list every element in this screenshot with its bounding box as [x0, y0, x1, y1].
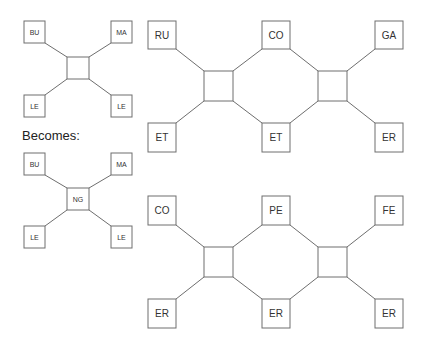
center-node-left	[204, 71, 233, 101]
small-diagram-after: BU MA NG LE LE	[24, 153, 132, 248]
center-node-right	[318, 247, 347, 277]
node-label: CO	[155, 205, 170, 216]
node-label: LE	[117, 234, 126, 241]
node-label: LE	[30, 234, 39, 241]
big-diagram-top: RU CO GA ET ET ER	[148, 21, 403, 152]
node-label: LE	[117, 103, 126, 110]
center-node-empty	[67, 57, 89, 79]
node-label: BU	[30, 161, 40, 168]
node-label: FE	[383, 205, 396, 216]
node-label: NG	[73, 196, 84, 203]
node-label: GA	[382, 30, 397, 41]
node-label: BU	[30, 29, 40, 36]
node-label: ER	[382, 132, 396, 143]
node-label: ER	[382, 308, 396, 319]
node-label: CO	[269, 30, 284, 41]
node-label: MA	[116, 161, 127, 168]
node-label: RU	[155, 30, 169, 41]
node-label: ET	[156, 132, 169, 143]
node-label: PE	[269, 205, 283, 216]
node-label: ET	[270, 132, 283, 143]
small-diagram-before: BU MA LE LE	[24, 21, 132, 117]
node-label: MA	[116, 29, 127, 36]
big-diagram-bottom: CO PE FE ER ER ER	[148, 196, 403, 328]
node-label: LE	[30, 103, 39, 110]
diagram-canvas: BU MA LE LE BU MA NG LE LE RU	[0, 0, 428, 347]
node-label: ER	[269, 308, 283, 319]
center-node-right	[318, 71, 347, 101]
center-node-left	[204, 247, 233, 277]
node-label: ER	[155, 308, 169, 319]
